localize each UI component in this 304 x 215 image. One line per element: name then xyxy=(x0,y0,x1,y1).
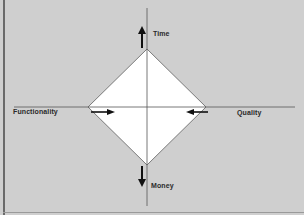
axis-label-quality: Quality xyxy=(237,109,261,116)
axis-label-money: Money xyxy=(151,182,174,189)
axis-label-functionality: Functionality xyxy=(13,108,58,115)
axis-label-time: Time xyxy=(153,30,170,37)
arrow-down-icon xyxy=(138,166,146,187)
diagram-canvas: Time Functionality Quality Money xyxy=(0,0,304,215)
arrow-up-icon xyxy=(138,26,146,48)
